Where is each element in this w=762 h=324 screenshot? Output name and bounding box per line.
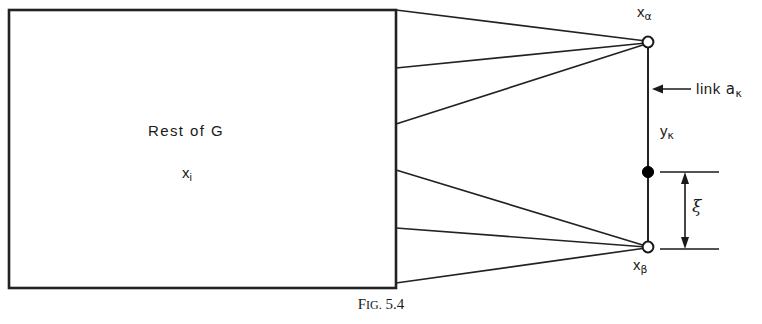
link-annotation-text: link [696, 80, 726, 97]
x-alpha-label: xα [637, 3, 652, 23]
x-alpha-base: x [637, 3, 645, 20]
x-beta-label: xβ [633, 256, 647, 276]
rest-of-g-box [9, 10, 396, 288]
figure-container: Rest of G xi xα yκ xβ link aκ ξ FIG. 5.4 [0, 0, 762, 324]
node-x-alpha [643, 37, 654, 48]
x-beta-base: x [633, 256, 641, 273]
node-x-beta [643, 242, 654, 253]
rest-of-g-label: Rest of G [148, 122, 224, 139]
figure-drawing [0, 0, 762, 324]
xi-symbol-label: ξ [692, 196, 701, 216]
x-beta-subscript: β [641, 263, 648, 276]
link-annotation-subscript: κ [735, 87, 741, 100]
xi-dimension [660, 172, 719, 249]
caption-fig-initial: F [358, 296, 366, 312]
caption-number: 5.4 [386, 296, 405, 312]
figure-caption: FIG. 5.4 [0, 296, 762, 313]
caption-fig-word: IG. [366, 298, 382, 312]
link-annotation-label: link aκ [696, 80, 742, 100]
box-node-base: x [182, 164, 190, 181]
y-kappa-base: y [660, 122, 668, 139]
y-kappa-subscript: κ [668, 129, 674, 142]
x-alpha-subscript: α [645, 10, 652, 23]
link-annotation-base: a [726, 80, 736, 98]
box-node-label: xi [182, 164, 192, 183]
y-kappa-label: yκ [660, 122, 674, 142]
box-node-subscript: i [190, 171, 192, 183]
link-callout-arrow [652, 85, 691, 94]
edges-to-x-alpha [396, 10, 646, 124]
edges-to-x-beta [396, 170, 646, 283]
node-y-kappa [642, 166, 653, 177]
